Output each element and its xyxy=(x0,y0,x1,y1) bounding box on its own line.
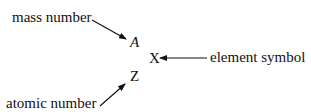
arrows xyxy=(0,0,311,112)
atomic-number-arrow xyxy=(100,84,125,106)
mass-number-arrow xyxy=(92,20,126,39)
